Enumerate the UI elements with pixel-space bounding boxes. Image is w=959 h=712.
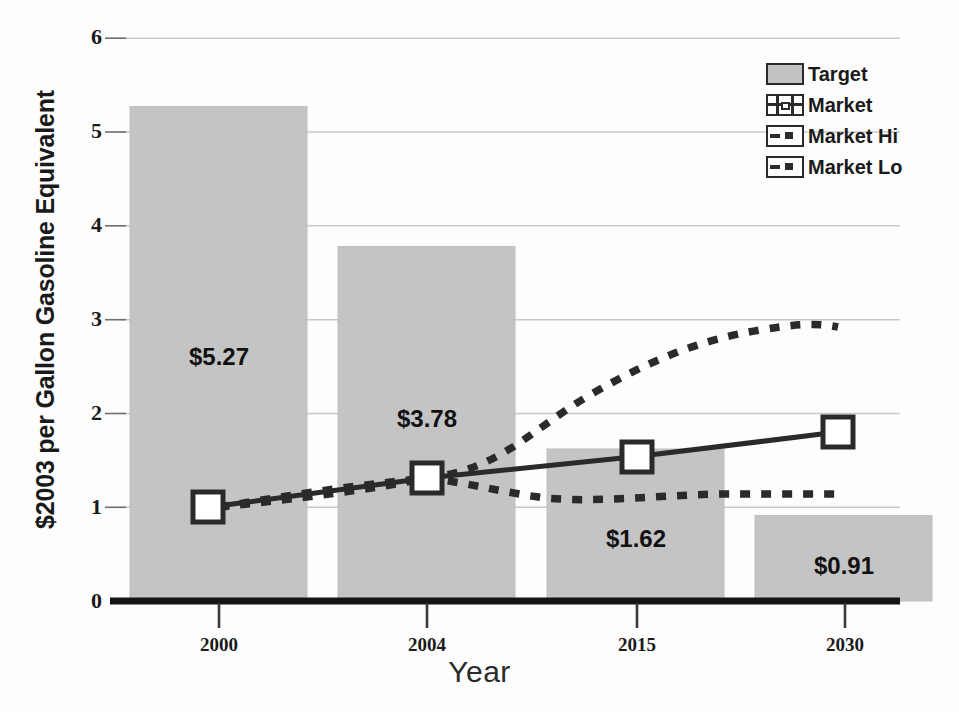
- x-tick-marks: [219, 603, 845, 628]
- legend-label-market-hi: Market Hi: [808, 125, 898, 147]
- y-tick-label-4: 4: [62, 212, 102, 238]
- legend-label-market: Market: [808, 94, 872, 116]
- y-tick-label-0: 0: [62, 588, 102, 614]
- chart-figure: 6 5 4 3 2 1 0 2000 2004 2015 2030 $5.27 …: [0, 0, 959, 712]
- y-tick-label-2: 2: [62, 400, 102, 426]
- chart-legend: Target Market Market Hi Market Lo: [766, 58, 946, 182]
- y-tick-label-5: 5: [62, 118, 102, 144]
- y-tick-label-6: 6: [62, 24, 102, 50]
- line-market-hi: [219, 324, 838, 507]
- x-tick-label-2004: 2004: [382, 634, 472, 656]
- y-axis-title: $2003 per Gallon Gasoline Equivalent: [31, 10, 60, 610]
- bar-label-2015: $1.62: [561, 525, 711, 553]
- y-tick-label-1: 1: [62, 494, 102, 520]
- legend-swatch-market-icon: [766, 94, 804, 116]
- bar-label-2004: $3.78: [352, 405, 502, 433]
- legend-item-target[interactable]: Target: [766, 58, 946, 89]
- legend-swatch-target-icon: [766, 63, 804, 85]
- marker-2030: [823, 417, 853, 447]
- legend-item-market-hi[interactable]: Market Hi: [766, 120, 946, 151]
- x-tick-label-2000: 2000: [174, 634, 264, 656]
- y-tick-marks: [105, 38, 126, 507]
- bar-label-2000: $5.27: [144, 343, 294, 371]
- legend-swatch-market-lo-icon: [766, 156, 804, 178]
- x-axis-title: Year: [0, 655, 959, 689]
- legend-swatch-market-hi-icon: [766, 125, 804, 147]
- bar-label-2030: $0.91: [769, 552, 919, 580]
- y-tick-label-3: 3: [62, 306, 102, 332]
- legend-label-target: Target: [808, 63, 868, 85]
- marker-2004: [412, 463, 442, 493]
- marker-2000: [193, 492, 223, 522]
- legend-label-market-lo: Market Lo: [808, 156, 902, 178]
- x-tick-label-2015: 2015: [592, 634, 682, 656]
- legend-item-market-lo[interactable]: Market Lo: [766, 151, 946, 182]
- x-tick-label-2030: 2030: [800, 634, 890, 656]
- legend-item-market[interactable]: Market: [766, 89, 946, 120]
- marker-2015: [622, 442, 652, 472]
